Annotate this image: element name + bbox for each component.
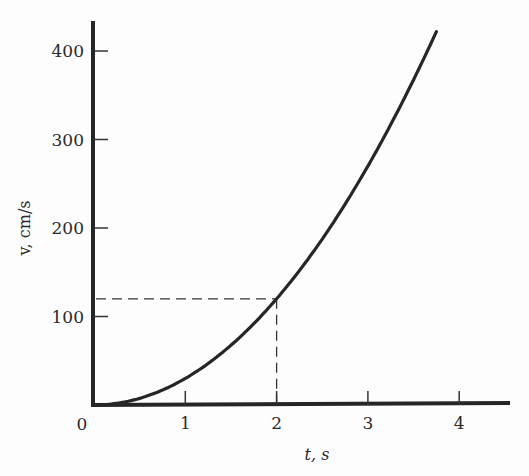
y-tick-label: 200 <box>52 218 84 238</box>
origin-label: 0 <box>77 414 88 434</box>
chart: 1234 100200300400 0 t, s v, cm/s <box>0 0 529 476</box>
x-tick-label: 4 <box>454 413 465 433</box>
x-axis-label: t, s <box>305 445 330 464</box>
x-tick-label: 2 <box>271 413 282 433</box>
x-axis <box>91 403 510 405</box>
x-ticks: 1234 <box>180 391 465 433</box>
data-curve <box>94 32 436 405</box>
x-tick-label: 3 <box>362 413 373 433</box>
y-tick-label: 300 <box>52 130 84 150</box>
y-tick-label: 400 <box>52 41 84 61</box>
dashed-guides <box>96 299 277 403</box>
y-ticks: 100200300400 <box>52 41 108 327</box>
plot-svg: 1234 100200300400 0 t, s v, cm/s <box>0 0 529 476</box>
x-tick-label: 1 <box>180 413 191 433</box>
y-axis-label: v, cm/s <box>15 200 34 256</box>
y-tick-label: 100 <box>52 307 84 327</box>
